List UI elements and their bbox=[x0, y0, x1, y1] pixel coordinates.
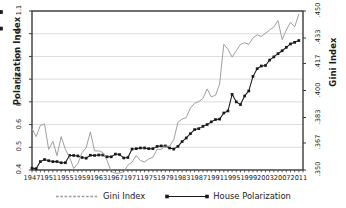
series-marker bbox=[0, 10, 3, 13]
y-tick-left: 0.9 bbox=[15, 45, 23, 65]
series-marker bbox=[89, 154, 92, 157]
series-marker bbox=[239, 103, 242, 106]
series-marker bbox=[256, 67, 259, 70]
series-marker bbox=[156, 145, 159, 148]
series-marker bbox=[131, 148, 134, 151]
series-marker bbox=[43, 158, 46, 161]
y-tick-right: .433 bbox=[314, 26, 322, 48]
series-marker bbox=[235, 101, 238, 104]
y-tick-left: 0.5 bbox=[15, 136, 23, 156]
series-marker bbox=[118, 153, 121, 156]
series-marker bbox=[139, 147, 142, 150]
series-marker bbox=[81, 156, 84, 159]
x-tick-label: 2011 bbox=[288, 174, 310, 182]
y-tick-right: .450 bbox=[314, 0, 322, 21]
series-marker bbox=[231, 93, 234, 96]
legend-entry-gini: Gini Index bbox=[55, 191, 145, 201]
series-marker bbox=[260, 65, 263, 68]
y-tick-right: .367 bbox=[314, 131, 322, 153]
series-marker bbox=[177, 145, 180, 148]
series-marker bbox=[277, 52, 280, 55]
series-marker bbox=[206, 123, 209, 126]
y-tick-left: 1.1 bbox=[15, 0, 23, 20]
series-marker bbox=[293, 41, 296, 44]
series-marker bbox=[172, 148, 175, 151]
series-marker bbox=[214, 118, 217, 121]
series-marker bbox=[127, 156, 130, 159]
y-tick-left: 1.0 bbox=[15, 23, 23, 43]
series-marker bbox=[39, 160, 42, 163]
series-marker bbox=[135, 147, 138, 150]
legend-entry-house-polarization: House Polarization bbox=[165, 191, 291, 201]
y-tick-left: 0.8 bbox=[15, 68, 23, 88]
series-marker bbox=[93, 154, 96, 157]
series-marker bbox=[35, 167, 38, 170]
series-marker bbox=[77, 155, 80, 158]
series-marker bbox=[202, 125, 205, 128]
series-marker bbox=[297, 39, 300, 42]
legend-swatch-house-polarization-icon bbox=[165, 192, 209, 201]
series-marker bbox=[289, 43, 292, 46]
series-marker bbox=[64, 161, 67, 164]
series-marker bbox=[218, 118, 221, 121]
y-tick-left: 0.6 bbox=[15, 114, 23, 134]
legend-swatch-gini-icon bbox=[55, 192, 99, 201]
series-marker bbox=[60, 161, 63, 164]
series-marker bbox=[181, 140, 184, 143]
series-marker bbox=[193, 128, 196, 131]
y-tick-right: .400 bbox=[314, 79, 322, 101]
series-marker bbox=[185, 137, 188, 140]
series-marker bbox=[47, 159, 50, 162]
y-tick-right: .350 bbox=[314, 158, 322, 180]
y-tick-right: .383 bbox=[314, 106, 322, 128]
series-marker bbox=[143, 147, 146, 150]
series-marker bbox=[97, 154, 100, 157]
series-marker bbox=[197, 127, 200, 130]
series-marker bbox=[114, 153, 117, 156]
series-marker bbox=[210, 121, 213, 124]
series-marker bbox=[272, 56, 275, 59]
series-marker bbox=[0, 27, 3, 30]
series-marker bbox=[31, 167, 34, 170]
chart-figure: Polarization Index Gini Index 0.40.50.60… bbox=[0, 0, 346, 208]
series-marker bbox=[247, 90, 250, 93]
y-tick-left: 0.7 bbox=[15, 91, 23, 111]
legend-label-gini: Gini Index bbox=[103, 191, 145, 201]
series-marker bbox=[285, 46, 288, 49]
series-marker bbox=[72, 154, 75, 157]
series-marker bbox=[52, 160, 55, 163]
series-marker bbox=[56, 160, 59, 163]
series-marker bbox=[268, 59, 271, 62]
series-marker bbox=[264, 64, 267, 67]
series-marker bbox=[281, 49, 284, 52]
series-marker bbox=[110, 155, 113, 158]
series-marker bbox=[252, 75, 255, 78]
series-marker bbox=[189, 132, 192, 135]
series-marker bbox=[243, 95, 246, 98]
series-marker bbox=[122, 157, 125, 160]
series-marker bbox=[227, 110, 230, 113]
series-marker bbox=[152, 147, 155, 150]
legend-label-house-polarization: House Polarization bbox=[213, 191, 291, 201]
series-marker bbox=[85, 157, 88, 160]
series-marker bbox=[147, 147, 150, 150]
series-marker bbox=[222, 112, 225, 115]
series-marker bbox=[160, 145, 163, 148]
series-marker bbox=[168, 147, 171, 150]
chart-legend: Gini Index House Polarization bbox=[0, 186, 346, 206]
y-tick-right: .417 bbox=[314, 51, 322, 73]
